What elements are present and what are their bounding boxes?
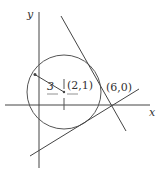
point-label: (6,0) [106,81,132,94]
y-axis-label: y [26,8,34,21]
tangent-line-lower [30,89,139,156]
radius-endpoint-dot [34,73,37,76]
center-dot [63,91,65,93]
x-axis-label: x [149,106,156,119]
center-label: (2,1) [67,79,93,92]
radius-label: 3 [47,80,54,93]
geometry-diagram: y x 3 (2,1) (6,0) [0,0,160,181]
